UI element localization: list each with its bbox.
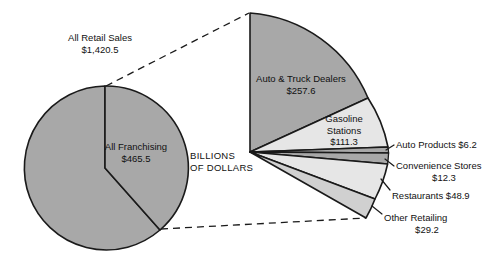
other-retailing-label-value: $29.2: [384, 224, 470, 236]
franchising-label-title: All Franchising: [88, 141, 184, 153]
units-label-line1: BILLIONS: [190, 150, 260, 162]
gasoline-stations-label-value: $111.3: [312, 136, 376, 148]
total-label: All Retail Sales $1,420.5: [45, 32, 155, 55]
gasoline-stations-label-line2: Stations: [312, 125, 376, 137]
other-retailing-label-title: Other Retailing: [384, 212, 480, 224]
leader-line-other-retailing: [372, 206, 382, 214]
convenience-stores-label-value: $12.3: [396, 172, 492, 184]
auto-truck-dealers-label: Auto & Truck Dealers $257.6: [243, 73, 359, 96]
gasoline-stations-label-line1: Gasoline: [312, 113, 376, 125]
auto-products-label: Auto Products $6.2: [396, 139, 477, 151]
restaurants-label: Restaurants $48.9: [392, 190, 470, 202]
franchising-label-value: $465.5: [88, 153, 184, 165]
main-pie-group: [24, 86, 188, 250]
units-label: BILLIONS OF DOLLARS: [190, 150, 260, 174]
auto-truck-dealers-label-value: $257.6: [243, 85, 359, 97]
auto-truck-dealers-label-title: Auto & Truck Dealers: [243, 73, 359, 85]
gasoline-stations-label: Gasoline Stations $111.3: [312, 113, 376, 148]
total-label-title: All Retail Sales: [45, 32, 155, 44]
franchising-label: All Franchising $465.5: [88, 141, 184, 164]
total-label-value: $1,420.5: [45, 44, 155, 56]
auto-products-label-text: Auto Products $6.2: [396, 139, 477, 151]
convenience-stores-label-title: Convenience Stores: [396, 160, 496, 172]
other-retailing-label: Other Retailing $29.2: [384, 212, 480, 235]
connector-line-bottom: [161, 218, 366, 229]
units-label-line2: OF DOLLARS: [190, 162, 260, 174]
convenience-stores-label: Convenience Stores $12.3: [396, 160, 496, 183]
pie-chart-figure: All Retail Sales $1,420.5 All Franchisin…: [0, 0, 500, 266]
restaurants-label-text: Restaurants $48.9: [392, 190, 470, 202]
